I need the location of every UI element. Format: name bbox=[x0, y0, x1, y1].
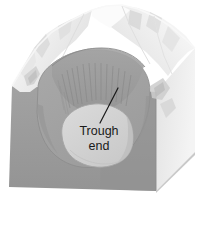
trough-end-label-line1: Trough bbox=[79, 124, 118, 138]
trough-end-label-line2: end bbox=[89, 139, 110, 153]
figure-root: Trough end bbox=[0, 0, 210, 225]
block-right-face bbox=[156, 48, 195, 191]
block-diagram: Trough end bbox=[0, 0, 210, 225]
